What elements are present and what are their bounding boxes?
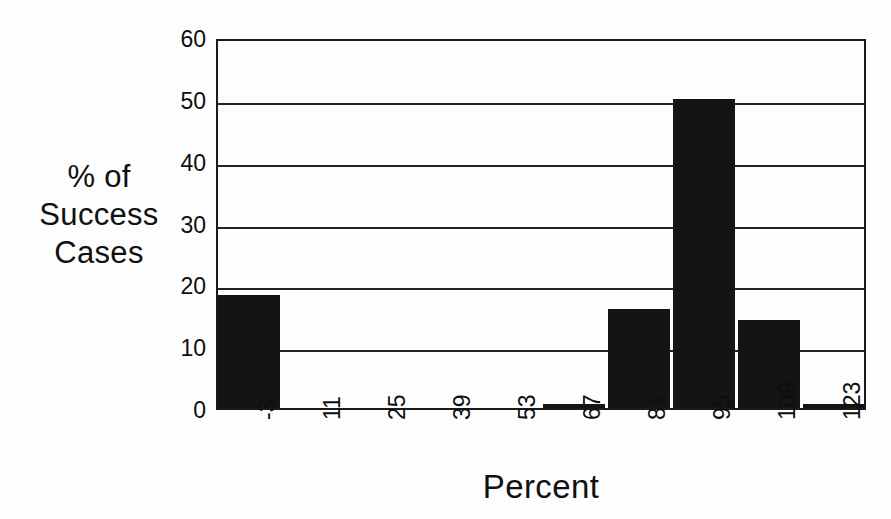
x-axis-label: Percent — [216, 468, 866, 506]
y-axis-label-line-1: % of — [24, 158, 174, 196]
y-axis-label-line-3: Cases — [24, 234, 174, 272]
y-tick-label: 30 — [160, 213, 206, 236]
x-tick-label-text: 95 — [711, 394, 734, 420]
gridline — [218, 227, 864, 229]
y-tick-label: 40 — [160, 151, 206, 174]
y-tick-label: 10 — [160, 337, 206, 360]
bar — [608, 309, 670, 408]
x-tick-label-text: 11 — [321, 396, 344, 420]
x-tick-label-text: 109 — [776, 382, 799, 420]
x-axis-tick-labels: -311253953678195109123 — [216, 416, 866, 476]
gridline — [218, 288, 864, 290]
x-tick-label-text: 81 — [646, 394, 669, 420]
y-axis-label: % of Success Cases — [24, 158, 174, 272]
gridline — [218, 165, 864, 167]
y-axis-label-line-2: Success — [24, 196, 174, 234]
gridline — [218, 103, 864, 105]
x-tick-label-text: 67 — [581, 394, 604, 420]
x-tick-label-text: 53 — [516, 394, 539, 420]
y-tick-label: 20 — [160, 275, 206, 298]
plot-area — [216, 39, 866, 410]
x-tick-label-text: 39 — [451, 394, 474, 420]
y-tick-label: 50 — [160, 89, 206, 112]
histogram-figure: % of Success Cases 0102030405060 -311253… — [0, 0, 891, 519]
y-tick-label: 0 — [160, 399, 206, 422]
y-axis-tick-labels: 0102030405060 — [160, 0, 206, 519]
x-tick-label-text: 123 — [841, 382, 864, 420]
bar — [673, 99, 735, 408]
x-tick-label-text: 25 — [386, 394, 409, 420]
bar — [218, 295, 280, 408]
x-tick-label-text: -3 — [256, 400, 279, 420]
y-tick-label: 60 — [160, 28, 206, 51]
